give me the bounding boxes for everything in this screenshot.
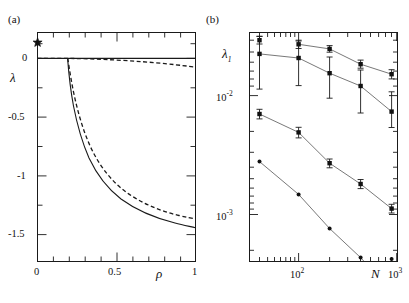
panel-a-plot (0, 0, 205, 303)
panel-a-xtick-05: 0.5 (108, 266, 121, 277)
panel-b-xtick-1e3-mantissa: 10 (388, 269, 399, 280)
panel-b-ylabel-subscript: 1 (228, 55, 232, 64)
panel-b-ytick-1e-2-mantissa: 10 (216, 92, 227, 103)
panel-b-y-ticks (250, 40, 259, 250)
panel-a-x-ticks (38, 253, 196, 262)
curve-lower-dashed (68, 58, 196, 219)
panel-b-ylabel: λ1 (222, 46, 231, 64)
panel-b-ytick-1e-3-mantissa: 10 (216, 211, 227, 222)
panel-a-ylabel: λ (10, 70, 16, 86)
series-steep-upper (257, 36, 395, 127)
series-shallow-upper (296, 40, 395, 79)
panel-b-xlabel: N (371, 266, 380, 282)
panel-b-ytick-1e-2-exp: -2 (227, 89, 233, 98)
figure-container: (a) (0, 0, 409, 303)
panel-a-ytick-0: 0 (22, 52, 27, 63)
curve-lower-solid (68, 58, 196, 227)
panel-a-xtick-0: 0 (34, 266, 39, 277)
panel-b-ytick-1e-3-exp: -3 (227, 208, 233, 217)
panel-a-top-ticks (38, 33, 196, 42)
panel-a-y-ticks-right (187, 44, 196, 235)
panel-a-xlabel: ρ (156, 266, 162, 282)
panel-a-xtick-1: 1 (192, 266, 197, 277)
panel-b-xtick-1e2-mantissa: 10 (290, 269, 301, 280)
panel-b: (b) (205, 0, 409, 303)
panel-b-top-ticks (260, 33, 397, 42)
panel-b-x-ticks (260, 253, 397, 262)
panel-b-ytick-1e-2: 10-2 (216, 89, 233, 103)
panel-a-ytick-neg1: -1 (17, 170, 26, 181)
panel-a-ytick-neg05: -0.5 (8, 111, 25, 122)
panel-b-xtick-1e2: 102 (290, 266, 304, 280)
panel-b-plot (205, 0, 409, 303)
curve-upper-dashed (38, 58, 196, 67)
panel-a-y-ticks (38, 44, 47, 235)
panel-b-y-ticks-right (389, 40, 398, 250)
panel-a-ytick-neg15: -1.5 (8, 228, 25, 239)
panel-b-xtick-1e3: 103 (388, 266, 402, 280)
panel-a: (a) (0, 0, 205, 303)
series-middle-power-law (257, 109, 395, 213)
panel-b-xtick-1e3-exp: 3 (399, 266, 403, 275)
panel-b-ytick-1e-3: 10-3 (216, 208, 233, 222)
panel-b-xtick-1e2-exp: 2 (301, 266, 305, 275)
